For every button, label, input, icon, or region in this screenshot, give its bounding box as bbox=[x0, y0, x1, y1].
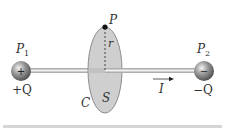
arrowhead-icon bbox=[169, 77, 174, 81]
plus-sign: + bbox=[17, 66, 25, 77]
label-surface-s: S bbox=[102, 92, 110, 104]
label-radius: r bbox=[108, 38, 113, 49]
point-p-dot bbox=[102, 24, 107, 29]
label-plus-q: +Q bbox=[12, 84, 32, 96]
label-point-p: P bbox=[109, 14, 117, 26]
label-current: I bbox=[159, 83, 164, 95]
minus-sign: − bbox=[200, 66, 208, 77]
wire-right bbox=[105, 68, 197, 73]
label-minus-q: −Q bbox=[193, 84, 213, 96]
wire-inside-disk bbox=[88, 68, 105, 73]
bottom-rule bbox=[3, 125, 222, 128]
wire-left bbox=[28, 68, 92, 73]
label-curve-c: C bbox=[81, 97, 90, 109]
label-p1: P1 bbox=[16, 43, 29, 58]
label-p2: P2 bbox=[197, 43, 210, 58]
